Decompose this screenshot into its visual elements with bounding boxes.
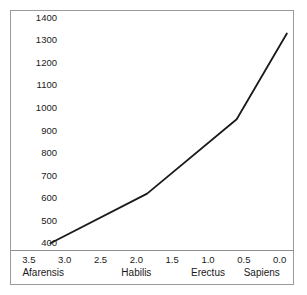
y-axis-tick-label: 1200 xyxy=(17,58,57,68)
x-axis-category-label: Sapiens xyxy=(217,267,307,279)
chart-figure: 14001300120011001000900800700600500400 3… xyxy=(0,0,307,295)
y-axis-tick-label: 800 xyxy=(17,148,57,158)
series-line-cranial-capacity xyxy=(50,34,286,244)
x-axis-tick-label: 2.0 xyxy=(116,254,156,265)
y-axis-tick-label: 700 xyxy=(17,171,57,181)
x-axis-category-labels: AfarensisHabilisErectusSapiens xyxy=(11,267,294,283)
plot-area: 14001300120011001000900800700600500400 xyxy=(11,11,294,250)
y-axis-tick-label: 500 xyxy=(17,216,57,226)
x-axis-tick-label: 3.5 xyxy=(9,254,49,265)
x-axis-tick-label: 1.5 xyxy=(152,254,192,265)
y-axis-tick-label: 1100 xyxy=(17,80,57,90)
y-axis-tick-label: 1000 xyxy=(17,103,57,113)
y-axis-tick-label: 1400 xyxy=(17,13,57,23)
y-axis-tick-labels: 14001300120011001000900800700600500400 xyxy=(17,11,57,250)
x-axis-tick-label: 0.5 xyxy=(224,254,264,265)
y-axis-tick-label: 600 xyxy=(17,193,57,203)
x-axis-tick-label: 0.0 xyxy=(260,254,300,265)
chart-frame: 14001300120011001000900800700600500400 3… xyxy=(10,10,294,285)
x-axis-tick-label: 3.0 xyxy=(45,254,85,265)
x-axis-tick-label: 2.5 xyxy=(81,254,121,265)
x-axis-category-label: Afarensis xyxy=(0,267,88,279)
x-axis-tick-label: 1.0 xyxy=(188,254,228,265)
y-axis-tick-label: 900 xyxy=(17,126,57,136)
x-axis-tick-labels: 3.53.02.52.01.51.00.50.0 xyxy=(11,254,294,268)
y-axis-tick-label: 1300 xyxy=(17,35,57,45)
x-axis-rule xyxy=(11,250,294,251)
y-axis-tick-label: 400 xyxy=(17,238,57,248)
